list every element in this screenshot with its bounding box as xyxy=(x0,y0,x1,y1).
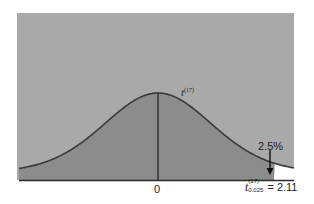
curve-label: t(17) xyxy=(181,86,194,98)
critical-value-label: t(17)0.025 = 2.11 xyxy=(245,180,297,195)
x-tick-zero: 0 xyxy=(154,183,160,195)
tail-percent-label: 2.5% xyxy=(258,140,283,152)
t-distribution-chart xyxy=(0,0,314,204)
